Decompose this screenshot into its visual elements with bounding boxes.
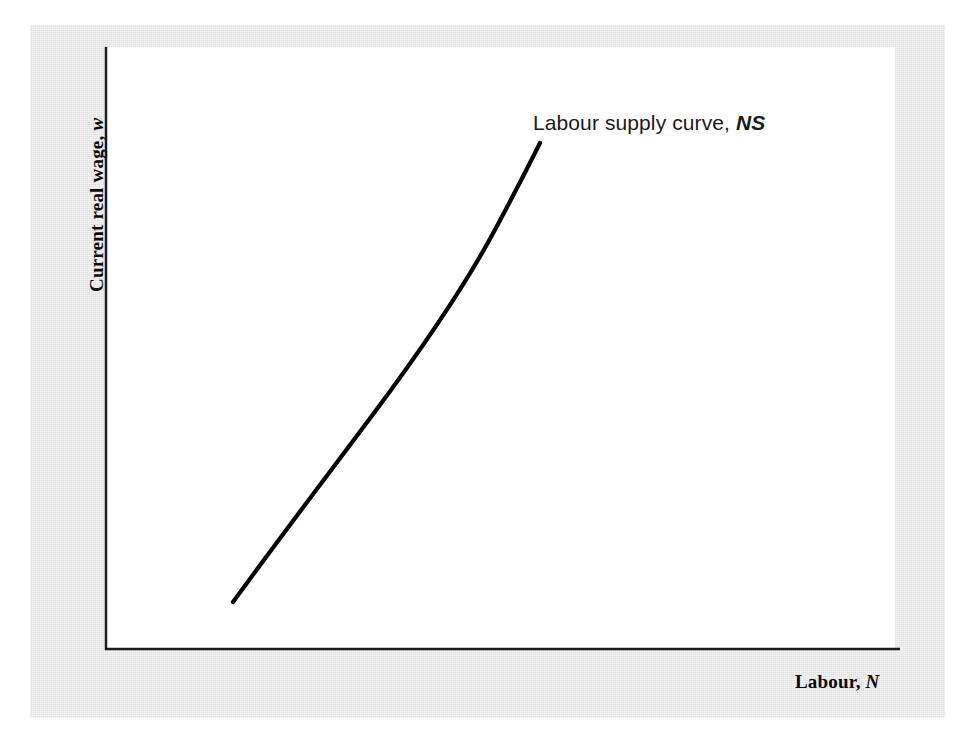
x-axis-label-symbol: N	[866, 671, 880, 692]
labour-supply-curve	[233, 143, 540, 602]
y-axis-label-text: Current real wage,	[86, 131, 107, 292]
y-axis-label-symbol: w	[86, 118, 107, 131]
x-axis-label: Labour, N	[795, 671, 880, 693]
curve-annotation-symbol: NS	[736, 111, 765, 134]
x-axis-label-text: Labour,	[795, 671, 866, 692]
curve-annotation-label: Labour supply curve, NS	[533, 111, 765, 135]
figure-container: Current real wage, w Labour, N Labour su…	[0, 0, 962, 736]
curve-annotation-text: Labour supply curve,	[533, 111, 736, 134]
chart-svg	[0, 0, 962, 736]
y-axis-label: Current real wage, w	[86, 118, 108, 292]
